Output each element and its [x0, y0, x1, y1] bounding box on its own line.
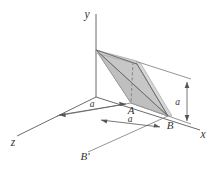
dimension-x-offset-group: a [101, 114, 160, 128]
point-A-label: A [127, 104, 135, 116]
dim-x-arrow-right [154, 124, 160, 128]
point-B-label: B [167, 119, 174, 131]
x-axis-label: x [199, 128, 206, 140]
diagram-canvas: a a a y x z A B B' [0, 0, 211, 172]
dim-height-arrow-top [185, 82, 190, 88]
dim-z-label: a [90, 99, 95, 109]
dimension-z-offset-group: a [59, 99, 126, 117]
z-axis-line [17, 97, 96, 136]
dim-x-arrow-left [101, 119, 107, 123]
point-B-prime-label: B' [80, 150, 90, 162]
figure-root: a a a y x z A B B' [0, 0, 211, 172]
dim-height-label: a [175, 97, 180, 107]
dimension-height-group: a [175, 82, 189, 121]
dim-height-arrow-bottom [185, 115, 190, 121]
y-axis-label: y [83, 8, 90, 21]
z-axis-label: z [10, 136, 16, 148]
